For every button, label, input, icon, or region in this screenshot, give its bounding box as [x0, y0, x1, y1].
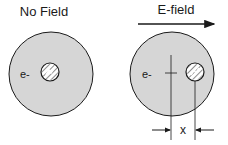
nucleus-icon — [186, 63, 204, 81]
e-field-title: E-field — [158, 2, 195, 17]
polarization-diagram: No Field e- E-field e- x — [0, 0, 228, 145]
e-field-panel: E-field e- x — [130, 2, 214, 140]
electron-label: e- — [142, 68, 152, 80]
no-field-panel: No Field e- — [9, 4, 93, 116]
electron-label: e- — [20, 68, 30, 80]
nucleus-icon — [41, 63, 59, 81]
displacement-label: x — [180, 123, 186, 137]
no-field-title: No Field — [20, 4, 68, 19]
